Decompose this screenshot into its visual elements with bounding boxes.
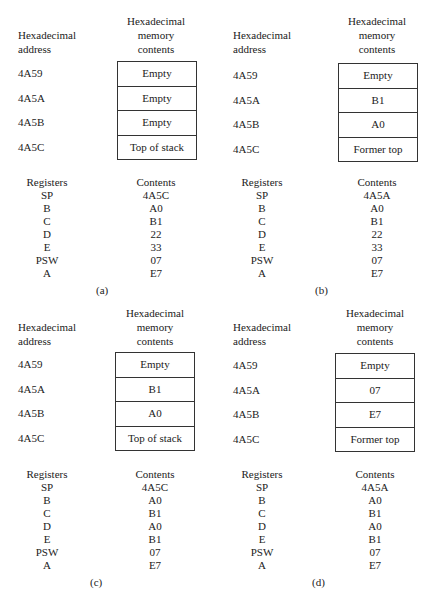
memory-cell: Empty xyxy=(118,111,196,136)
registers-column: RegistersSPBCDEPSWA xyxy=(237,468,287,572)
memory-header-line: Hexadecimal xyxy=(327,14,427,28)
register-name: SP xyxy=(22,481,72,494)
registers-header: Registers xyxy=(237,176,287,189)
memory-header-line: memory xyxy=(327,28,427,42)
register-name: D xyxy=(237,228,287,241)
address-header-line: Hexadecimal xyxy=(18,28,76,42)
memory-address: 4A5C xyxy=(233,432,259,446)
registers-column: RegistersSPBCDEPSWA xyxy=(22,176,72,280)
memory-address: 4A5C xyxy=(18,431,44,445)
register-name: B xyxy=(22,202,72,215)
register-value: 07 xyxy=(337,254,417,267)
register-name: D xyxy=(22,520,72,533)
memory-address: 4A5B xyxy=(18,406,44,420)
contents-column: Contents4A5CA0B1A0B107E7 xyxy=(115,468,195,572)
address-header: Hexadecimal address xyxy=(233,320,291,348)
memory-cell: Former top xyxy=(336,428,414,452)
memory-address: 4A5B xyxy=(233,407,259,421)
contents-column: Contents4A5CA0B1223307E7 xyxy=(116,176,196,280)
register-value: B1 xyxy=(337,215,417,228)
address-header-line: address xyxy=(233,334,291,348)
register-value: A0 xyxy=(337,202,417,215)
register-value: B1 xyxy=(335,507,415,520)
address-header: Hexadecimal address xyxy=(18,320,76,348)
stack-memory-box: EmptyEmptyEmptyTop of stack xyxy=(117,61,197,160)
address-header-line: address xyxy=(18,334,76,348)
stack-memory-box: EmptyB1A0Former top xyxy=(338,63,418,162)
register-name: D xyxy=(237,520,287,533)
memory-address: 4A59 xyxy=(18,357,42,371)
memory-cell: E7 xyxy=(336,403,414,428)
memory-cell: Top of stack xyxy=(118,136,196,160)
register-value: 4A5A xyxy=(337,189,417,202)
register-value: A0 xyxy=(116,202,196,215)
memory-header-line: memory xyxy=(105,320,205,334)
memory-address: 4A59 xyxy=(18,66,42,80)
register-value: 22 xyxy=(116,228,196,241)
memory-header-line: Hexadecimal xyxy=(105,306,205,320)
stack-memory-box: Empty07E7Former top xyxy=(335,353,415,452)
contents-column: Contents4A5AA0B1A0B107E7 xyxy=(335,468,415,572)
stack-panel-d: Hexadecimal address Hexadecimal memory c… xyxy=(215,292,430,592)
memory-address: 4A59 xyxy=(233,358,257,372)
memory-cell: Former top xyxy=(339,138,417,162)
register-name: B xyxy=(22,494,72,507)
register-value: E7 xyxy=(115,559,195,572)
stack-panel-c: Hexadecimal address Hexadecimal memory c… xyxy=(0,292,215,592)
address-header: Hexadecimal address xyxy=(233,28,291,56)
address-header-line: Hexadecimal xyxy=(233,28,291,42)
register-value: 07 xyxy=(335,546,415,559)
register-name: E xyxy=(237,533,287,546)
register-name: PSW xyxy=(22,254,72,267)
memory-header-line: memory xyxy=(325,320,425,334)
registers-column: RegistersSPBCDEPSWA xyxy=(237,176,287,280)
register-name: A xyxy=(237,559,287,572)
register-value: E7 xyxy=(116,267,196,280)
contents-header: Contents xyxy=(335,468,415,481)
register-name: B xyxy=(237,494,287,507)
memory-address: 4A5A xyxy=(18,382,45,396)
stack-panel-b: Hexadecimal address Hexadecimal memory c… xyxy=(215,0,430,300)
address-header-line: Hexadecimal xyxy=(233,320,291,334)
register-name: C xyxy=(22,215,72,228)
register-name: PSW xyxy=(237,254,287,267)
register-value: B1 xyxy=(115,507,195,520)
memory-header-line: contents xyxy=(106,42,206,56)
memory-address: 4A5C xyxy=(233,142,259,156)
register-name: B xyxy=(237,202,287,215)
register-value: 4A5C xyxy=(115,481,195,494)
register-value: 07 xyxy=(116,254,196,267)
memory-header-line: Hexadecimal xyxy=(106,14,206,28)
memory-address: 4A5B xyxy=(233,117,259,131)
register-name: C xyxy=(237,507,287,520)
memory-address: 4A5C xyxy=(18,140,44,154)
stack-panel-a: Hexadecimal address Hexadecimal memory c… xyxy=(0,0,215,300)
register-name: E xyxy=(237,241,287,254)
memory-cell: B1 xyxy=(116,378,194,403)
registers-header: Registers xyxy=(22,468,72,481)
address-header-line: Hexadecimal xyxy=(18,320,76,334)
contents-header: Contents xyxy=(337,176,417,189)
memory-address: 4A5A xyxy=(18,91,45,105)
memory-cell: Empty xyxy=(118,62,196,87)
register-name: E xyxy=(22,241,72,254)
register-name: C xyxy=(22,507,72,520)
memory-cell: Empty xyxy=(339,64,417,89)
register-value: 33 xyxy=(337,241,417,254)
address-header-line: address xyxy=(18,42,76,56)
register-name: A xyxy=(22,267,72,280)
register-value: B1 xyxy=(116,215,196,228)
memory-header-line: contents xyxy=(327,42,427,56)
memory-header: Hexadecimal memory contents xyxy=(327,14,427,56)
contents-header: Contents xyxy=(116,176,196,189)
register-value: 07 xyxy=(115,546,195,559)
register-value: A0 xyxy=(335,494,415,507)
memory-header-line: memory xyxy=(106,28,206,42)
memory-cell: Top of stack xyxy=(116,427,194,451)
memory-cell: A0 xyxy=(116,402,194,427)
address-header: Hexadecimal address xyxy=(18,28,76,56)
memory-address: 4A5A xyxy=(233,383,260,397)
register-value: E7 xyxy=(335,559,415,572)
contents-column: Contents4A5AA0B1223307E7 xyxy=(337,176,417,280)
register-name: D xyxy=(22,228,72,241)
